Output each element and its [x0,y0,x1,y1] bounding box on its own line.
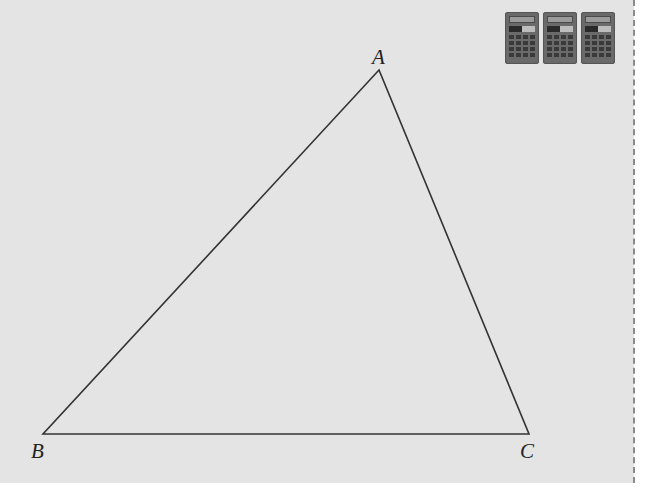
calculator-icon[interactable] [543,12,577,64]
triangle-diagram [0,0,634,483]
vertex-label-b: B [31,441,44,462]
calculator-icon[interactable] [581,12,615,64]
triangle-abc [43,70,529,434]
calculator-icon[interactable] [505,12,539,64]
vertex-label-a: A [372,47,385,68]
vertex-label-c: C [520,441,534,462]
calculator-toolbar [505,12,615,64]
